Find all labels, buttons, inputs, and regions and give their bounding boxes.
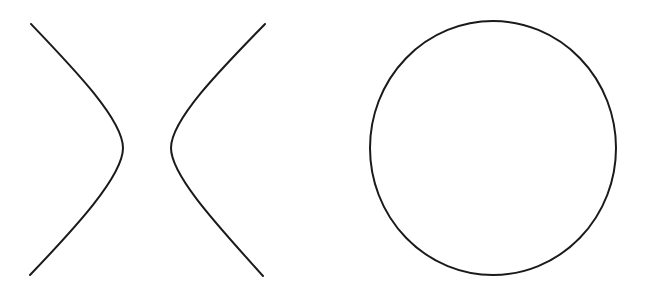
hyperbola xyxy=(30,24,265,276)
hyperbola-left-branch xyxy=(30,24,123,275)
hyperbola-right-branch xyxy=(171,24,265,276)
circle xyxy=(370,21,616,275)
conic-sections-figure xyxy=(0,0,645,289)
